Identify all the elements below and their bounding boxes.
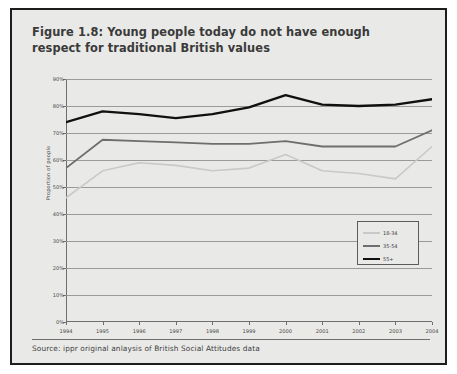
x-tick-label: 1996 (133, 328, 146, 334)
series-line-18-34 (66, 147, 432, 198)
y-tick-label: 10% (32, 292, 64, 298)
legend-item-55-[interactable]: 55+ (363, 254, 394, 264)
figure-panel: Figure 1.8: Young people today do not ha… (10, 8, 447, 365)
plot-area: Proportion of people 0%10%20%30%40%50%60… (32, 74, 432, 333)
x-tick-label: 1999 (243, 328, 256, 334)
x-tickmark (322, 322, 323, 325)
y-tick-label: 30% (32, 238, 64, 244)
x-tickmark (286, 322, 287, 325)
source-divider (32, 339, 430, 340)
legend-item-18-34[interactable]: 18-34 (363, 228, 398, 238)
legend-label: 18-34 (383, 230, 398, 236)
source-note: Source: ippr original anlaysis of Britis… (32, 344, 260, 353)
chart-legend: 18-3435-5455+ (357, 221, 419, 265)
legend-label: 35-54 (383, 243, 398, 249)
x-tick-label: 2002 (352, 328, 365, 334)
x-tickmark (249, 322, 250, 325)
y-tick-label: 20% (32, 265, 64, 271)
x-tickmark (359, 322, 360, 325)
y-tick-label: 50% (32, 184, 64, 190)
x-tick-label: 2000 (279, 328, 292, 334)
y-tick-label: 40% (32, 211, 64, 217)
y-tick-label: 60% (32, 157, 64, 163)
x-tick-label: 1997 (169, 328, 182, 334)
legend-label: 55+ (383, 256, 394, 262)
series-line-55- (66, 95, 432, 122)
x-tick-label: 2004 (426, 328, 439, 334)
y-axis-label: Proportion of people (45, 133, 51, 213)
legend-item-35-54[interactable]: 35-54 (363, 241, 398, 251)
legend-swatch (363, 245, 380, 247)
x-tickmark (432, 322, 433, 325)
x-tick-label: 1994 (60, 328, 73, 334)
x-tickmark (66, 322, 67, 325)
x-tick-label: 1998 (206, 328, 219, 334)
x-tickmark (176, 322, 177, 325)
figure-title: Figure 1.8: Young people today do not ha… (32, 24, 422, 56)
x-tickmark (103, 322, 104, 325)
x-tick-label: 2003 (389, 328, 402, 334)
x-tickmark (139, 322, 140, 325)
legend-swatch (363, 258, 380, 260)
x-tick-label: 2001 (316, 328, 329, 334)
y-tick-label: 80% (32, 103, 64, 109)
series-line-35-54 (66, 130, 432, 168)
legend-swatch (363, 232, 380, 234)
y-tick-label: 0% (32, 319, 64, 325)
x-tickmark (395, 322, 396, 325)
y-tick-label: 70% (32, 130, 64, 136)
y-tick-label: 90% (32, 76, 64, 82)
series-lines (66, 79, 432, 322)
x-tick-label: 1995 (96, 328, 109, 334)
x-tickmark (212, 322, 213, 325)
